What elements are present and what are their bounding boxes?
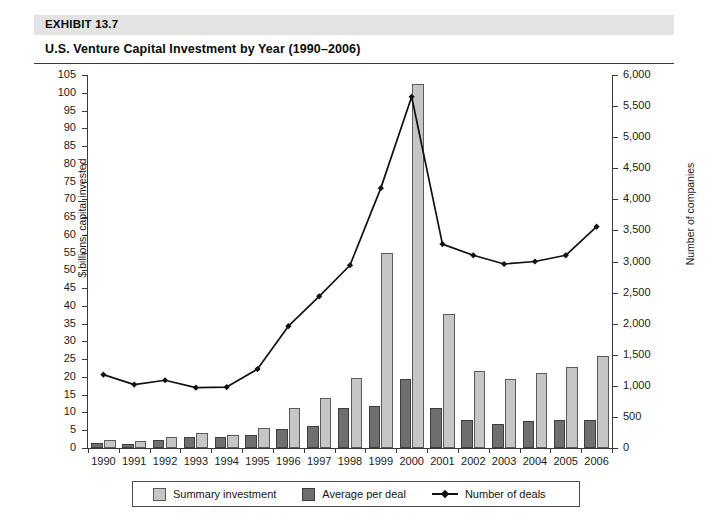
bar-summary-investment xyxy=(443,314,455,448)
y-tick-label-right: 2,500 xyxy=(623,287,651,298)
y-tick-right xyxy=(612,386,618,387)
y-tick-label-left: 85 xyxy=(64,140,76,151)
x-tick xyxy=(581,448,582,453)
y-tick-right xyxy=(612,137,618,138)
y-tick-label-right: 1,000 xyxy=(623,380,651,391)
bar-summary-investment xyxy=(289,408,301,448)
y-tick-label-left: 40 xyxy=(64,300,76,311)
bar-summary-investment xyxy=(320,398,332,448)
deals-marker xyxy=(162,377,168,383)
summary-swatch-icon xyxy=(153,488,166,501)
y-tick-label-left: 20 xyxy=(64,371,76,382)
average-swatch-icon xyxy=(302,488,315,501)
y-tick-label-left: 50 xyxy=(64,264,76,275)
y-tick-label-left: 25 xyxy=(64,353,76,364)
y-tick-right xyxy=(612,106,618,107)
plot-area xyxy=(88,75,612,448)
legend-item-average-per-deal: Average per deal xyxy=(302,488,406,501)
x-tick xyxy=(88,448,89,453)
bar-average-per-deal xyxy=(276,429,288,448)
y-axis-left-title: $ billions, capital invested xyxy=(76,118,88,318)
legend-label-average: Average per deal xyxy=(322,488,406,500)
y-tick-label-left: 30 xyxy=(64,335,76,346)
y-tick-right xyxy=(612,168,618,169)
y-tick-label-left: 45 xyxy=(64,282,76,293)
legend-item-summary-investment: Summary investment xyxy=(153,488,276,501)
bar-summary-investment xyxy=(381,253,393,448)
bar-average-per-deal xyxy=(430,408,442,448)
legend-label-deals: Number of deals xyxy=(465,488,546,500)
bar-average-per-deal xyxy=(245,435,257,448)
y-tick-right xyxy=(612,324,618,325)
deals-marker xyxy=(532,258,538,264)
line-marker-icon xyxy=(432,488,458,500)
y-tick-label-right: 4,500 xyxy=(623,162,651,173)
y-axis-right-title: Number of companies xyxy=(684,114,696,314)
bar-summary-investment xyxy=(351,378,363,448)
y-tick-label-left: 80 xyxy=(64,158,76,169)
x-tick xyxy=(550,448,551,453)
x-tick xyxy=(150,448,151,453)
bar-average-per-deal xyxy=(492,424,504,449)
bar-average-per-deal xyxy=(554,420,566,448)
bar-summary-investment xyxy=(566,367,578,448)
y-tick-label-right: 4,000 xyxy=(623,193,651,204)
y-tick-right xyxy=(612,199,618,200)
deals-marker xyxy=(316,293,322,299)
title-divider xyxy=(34,63,674,64)
y-tick-right xyxy=(612,293,618,294)
x-tick xyxy=(273,448,274,453)
y-tick-label-left: 95 xyxy=(64,105,76,116)
x-tick xyxy=(365,448,366,453)
y-tick-label-right: 3,000 xyxy=(623,256,651,267)
x-tick xyxy=(180,448,181,453)
bar-summary-investment xyxy=(258,428,270,448)
y-tick-label-left: 0 xyxy=(70,442,76,453)
exhibit-label: EXHIBIT 13.7 xyxy=(45,18,118,30)
deals-marker xyxy=(100,372,106,378)
bar-average-per-deal xyxy=(153,440,165,448)
bar-average-per-deal xyxy=(307,426,319,448)
x-axis-line xyxy=(87,448,613,449)
deals-marker xyxy=(224,384,230,390)
deals-marker xyxy=(593,224,599,230)
chart-legend: Summary investment Average per deal Numb… xyxy=(132,481,580,507)
y-tick-label-left: 15 xyxy=(64,389,76,400)
x-tick xyxy=(242,448,243,453)
y-tick-label-right: 5,500 xyxy=(623,100,651,111)
bar-average-per-deal xyxy=(400,379,412,448)
y-tick-right xyxy=(612,262,618,263)
y-tick-label-left: 10 xyxy=(64,406,76,417)
x-tick xyxy=(489,448,490,453)
y-tick-label-left: 70 xyxy=(64,193,76,204)
y-tick-label-right: 6,000 xyxy=(623,69,651,80)
bar-summary-investment xyxy=(505,379,517,448)
bar-summary-investment xyxy=(196,433,208,448)
y-tick-label-right: 5,000 xyxy=(623,131,651,142)
deals-marker xyxy=(193,385,199,391)
x-tick xyxy=(304,448,305,453)
y-tick-right xyxy=(612,417,618,418)
bar-summary-investment xyxy=(412,84,424,448)
bar-summary-investment xyxy=(597,356,609,448)
x-tick-label: 2006 xyxy=(575,455,619,467)
x-tick xyxy=(211,448,212,453)
y-tick-label-right: 3,500 xyxy=(623,224,651,235)
x-tick xyxy=(427,448,428,453)
y-tick-label-left: 105 xyxy=(58,69,76,80)
bar-summary-investment xyxy=(135,441,147,448)
y-tick-label-left: 75 xyxy=(64,176,76,187)
bar-average-per-deal xyxy=(369,406,381,448)
y-tick-label-left: 55 xyxy=(64,247,76,258)
bar-average-per-deal xyxy=(523,421,535,448)
bar-average-per-deal xyxy=(184,437,196,448)
bar-average-per-deal xyxy=(338,408,350,448)
y-tick-label-right: 0 xyxy=(623,442,629,453)
bar-average-per-deal xyxy=(122,444,134,448)
exhibit-band xyxy=(34,15,674,35)
x-tick xyxy=(335,448,336,453)
y-tick-right xyxy=(612,75,618,76)
deals-marker xyxy=(378,185,384,191)
x-tick xyxy=(520,448,521,453)
y-tick-label-right: 2,000 xyxy=(623,318,651,329)
